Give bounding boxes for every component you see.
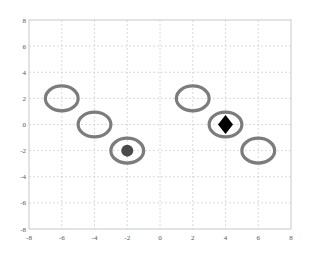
- x-tick-label: 8: [289, 234, 293, 242]
- y-tick-label: 0: [23, 121, 27, 129]
- y-tick-label: 4: [23, 69, 27, 77]
- y-tick-label: 6: [23, 43, 27, 51]
- scatter-chart: -8-6-4-202468 86420-2-4-6-8: [0, 0, 310, 258]
- grid-lines: [29, 20, 291, 229]
- x-tick-label: 6: [257, 234, 261, 242]
- x-axis-ticks: -8-6-4-202468: [26, 234, 293, 242]
- circle-marker: [121, 145, 133, 157]
- y-tick-label: -8: [20, 226, 26, 234]
- y-tick-label: -2: [20, 147, 26, 155]
- y-tick-label: -4: [20, 173, 26, 181]
- x-tick-label: -4: [92, 234, 98, 242]
- diamond-marker: [218, 115, 233, 134]
- y-axis-ticks: 86420-2-4-6-8: [20, 17, 26, 234]
- x-tick-label: 4: [224, 234, 228, 242]
- y-tick-label: 8: [23, 17, 27, 25]
- x-tick-label: -8: [26, 234, 32, 242]
- y-tick-label: -6: [20, 199, 26, 207]
- x-tick-label: -2: [124, 234, 130, 242]
- y-tick-label: 2: [23, 95, 27, 103]
- x-tick-label: 0: [158, 234, 162, 242]
- x-tick-label: 2: [191, 234, 195, 242]
- x-tick-label: -6: [59, 234, 65, 242]
